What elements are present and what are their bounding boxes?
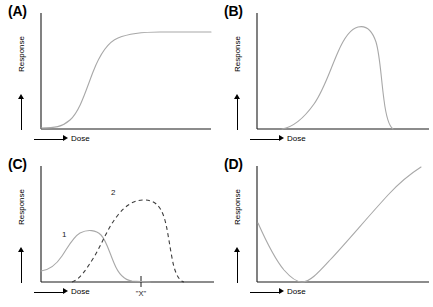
panel-b-peak-curve xyxy=(282,27,393,129)
panel-c-plot: 1 2 "X" xyxy=(0,153,216,306)
panel-a: (A) Response Dose xyxy=(0,0,216,153)
panel-c-dose-x-label: "X" xyxy=(136,289,147,298)
panel-d: (D) Response Dose xyxy=(216,153,432,306)
panel-a-plot xyxy=(0,0,216,153)
panel-c-curve-2-label: 2 xyxy=(111,188,116,197)
panel-c-curve-1-label: 1 xyxy=(62,230,67,239)
panel-b: (B) Response Dose xyxy=(216,0,432,153)
panel-b-plot xyxy=(216,0,432,153)
panel-d-u-curve xyxy=(258,167,421,282)
dose-response-figure: (A) Response Dose (B) Response Dose xyxy=(0,0,433,307)
panel-c: (C) Response Dose 1 2 "X" xyxy=(0,153,216,306)
panel-a-sigmoid-curve xyxy=(41,32,211,128)
panel-c-curve-1 xyxy=(41,231,150,282)
panel-d-plot xyxy=(216,153,432,306)
panel-c-curve-2 xyxy=(72,200,184,282)
